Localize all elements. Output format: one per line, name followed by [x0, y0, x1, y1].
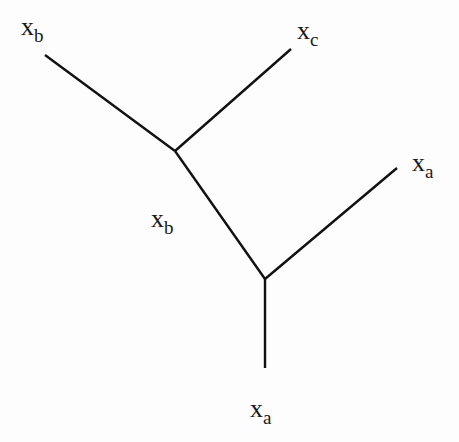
edge-upper-to-lower-junction: [175, 151, 265, 279]
label-subscript: a: [425, 161, 433, 182]
label-top-right: xc: [297, 18, 318, 44]
label-subscript: a: [263, 407, 271, 428]
label-base: x: [21, 14, 34, 40]
label-subscript: b: [34, 25, 44, 46]
label-base: x: [297, 18, 310, 44]
label-top-left: xb: [21, 14, 44, 40]
tree-diagram: xb xc xa xb xa: [0, 0, 459, 442]
edge-top-left-to-upper-junction: [45, 55, 175, 151]
edge-right-to-lower-junction: [265, 168, 397, 279]
label-right: xa: [412, 150, 433, 176]
label-base: x: [412, 150, 425, 176]
label-base: x: [250, 396, 263, 422]
edge-top-right-to-upper-junction: [175, 49, 291, 151]
label-bottom: xa: [250, 396, 271, 422]
label-subscript: b: [164, 217, 174, 238]
label-base: x: [151, 206, 164, 232]
label-middle: xb: [151, 206, 174, 232]
label-subscript: c: [310, 29, 318, 50]
tree-edges: [0, 0, 459, 442]
